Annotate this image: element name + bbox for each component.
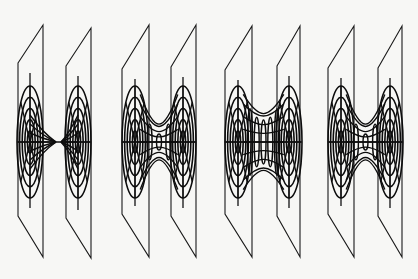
- panel-3: [225, 26, 302, 257]
- throat-profile: [140, 94, 178, 124]
- diagram-canvas: [0, 0, 418, 279]
- throat-profile: [346, 160, 385, 190]
- throat-longitude: [243, 129, 284, 133]
- wormhole-diagram: [0, 0, 418, 279]
- throat-profile: [140, 160, 178, 190]
- panel-1: [17, 25, 91, 258]
- panel-4: [328, 26, 403, 257]
- throat-profile: [346, 94, 385, 124]
- throat-longitude: [243, 151, 284, 155]
- panel-2: [122, 25, 196, 257]
